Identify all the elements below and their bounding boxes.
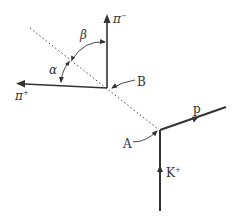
pi-plus-label: π+ bbox=[14, 89, 29, 103]
beta-angle-arc bbox=[72, 42, 105, 60]
proton-arrowhead-icon bbox=[192, 116, 199, 122]
pi-minus-arrowhead-icon bbox=[104, 14, 111, 23]
pi-plus-track bbox=[25, 84, 107, 88]
decay-diagram: π− π+ β α B A p K+ bbox=[0, 0, 243, 224]
k-plus-label: K+ bbox=[166, 166, 181, 180]
pi-minus-label: π− bbox=[112, 12, 127, 26]
beta-angle-label: β bbox=[79, 28, 87, 42]
pi-plus-arrowhead-icon bbox=[16, 80, 25, 88]
vertex-a-pointer bbox=[133, 131, 157, 142]
proton-label: p bbox=[193, 102, 201, 116]
alpha-angle-arc-start-icon bbox=[65, 61, 70, 67]
vertex-b-pointer bbox=[112, 80, 135, 88]
diagram-svg: π− π+ β α B A p K+ bbox=[0, 0, 243, 224]
vertex-a-label: A bbox=[122, 137, 132, 151]
alpha-angle-label: α bbox=[49, 63, 57, 77]
vertex-b-label: B bbox=[137, 75, 146, 89]
k-plus-arrowhead-icon bbox=[157, 165, 163, 172]
